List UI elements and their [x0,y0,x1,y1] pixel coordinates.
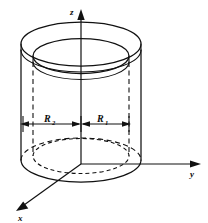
r1-left-arrowhead [81,121,90,126]
r1-right-arrowhead [122,121,131,126]
dimension-outer-radius: R 2 [20,113,81,132]
y-axis-arrowhead [190,160,201,167]
z-axis: z [69,7,85,164]
z-axis-arrowhead [77,9,84,20]
r2-right-arrowhead [72,121,81,126]
x-axis-label: x [17,213,23,223]
z-axis-label: z [69,7,74,17]
hollow-cylinder-diagram: z y x [0,0,208,223]
y-axis-label: y [189,169,195,179]
outer-radius-label: R [43,113,51,124]
figure-container: z y x [0,0,208,223]
inner-radius-subscript: 1 [105,119,108,126]
dimension-inner-radius: R 1 [81,113,131,132]
inner-radius-label: R [96,113,104,124]
x-axis: x [16,164,81,223]
outer-radius-subscript: 2 [51,119,56,126]
